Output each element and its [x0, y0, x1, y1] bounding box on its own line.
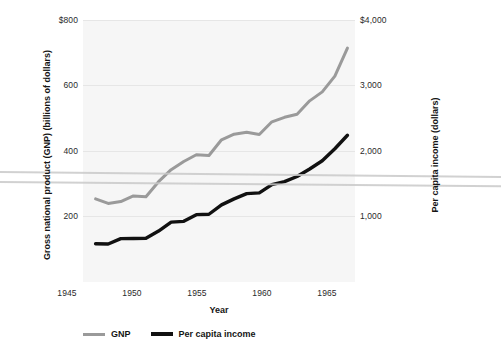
ytick-right-2000-wrap: 2,000	[360, 146, 404, 156]
gridline-400	[83, 151, 355, 152]
legend-item-per-capita-income: Per capita income	[151, 329, 256, 339]
ytick-right-1000: 1,000	[360, 211, 404, 221]
xtick-1950: 1950	[102, 288, 162, 298]
xtick-1945: 1945	[37, 288, 97, 298]
legend-swatch-gnp-icon	[83, 333, 105, 336]
xtick-1955: 1955	[167, 288, 227, 298]
ytick-right-4000: $4,000	[360, 15, 404, 25]
gridline-600	[83, 85, 355, 86]
ytick-right-3000: 3,000	[360, 80, 404, 90]
ytick-left-800-wrap: $800	[42, 15, 78, 25]
gridline-200	[83, 216, 355, 217]
legend-label-per-capita-income: Per capita income	[179, 329, 256, 339]
chart-figure: $800 600 400 200 $4,000 3,000 2,000 1,00…	[0, 0, 501, 348]
ytick-right-2000: 2,000	[360, 146, 404, 156]
x-axis-title: Year	[83, 305, 355, 315]
ytick-left-800: $800	[42, 15, 78, 25]
legend-label-gnp: GNP	[111, 329, 131, 339]
y-axis-right-title: Per capita income (dollars)	[430, 30, 440, 280]
legend-swatch-per-capita-income-icon	[151, 332, 173, 336]
legend-item-gnp: GNP	[83, 329, 131, 339]
ytick-right-4000-wrap: $4,000	[360, 15, 404, 25]
y-axis-left-title: Gross national product (GNP) (billions o…	[42, 30, 52, 280]
chart-legend: GNP Per capita income	[83, 329, 383, 339]
xtick-1965: 1965	[297, 288, 357, 298]
ytick-right-3000-wrap: 3,000	[360, 80, 404, 90]
gridline-800	[83, 20, 355, 21]
xtick-1960: 1960	[232, 288, 292, 298]
plot-area	[83, 20, 355, 282]
ytick-right-1000-wrap: 1,000	[360, 211, 404, 221]
